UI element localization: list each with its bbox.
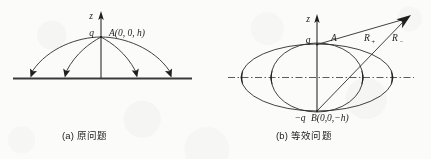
charge-label-negative-b: −q — [294, 113, 305, 123]
r-plus-label-base: R — [363, 33, 370, 43]
caption-panel-a: (a) 原问题 — [62, 128, 108, 142]
z-axis-label-b: z — [305, 14, 310, 24]
panel-a-group: z q A(0, 0, h) — [13, 11, 192, 79]
r-plus-label: R + — [363, 33, 375, 45]
figure-container: z q A(0, 0, h) — [0, 0, 431, 159]
charge-dot-negative-b — [316, 110, 318, 112]
r-minus-vector-line — [317, 22, 404, 112]
charge-dot-a — [100, 36, 102, 38]
ellipse-arrowhead-right-inner — [361, 70, 364, 85]
point-label-a: A(0, 0, h) — [108, 28, 145, 39]
r-minus-label-base: R — [391, 33, 398, 43]
field-line-arc-1 — [33, 37, 102, 71]
point-label-positive-b: A — [330, 33, 337, 43]
charge-label-positive-b: q — [306, 35, 311, 45]
r-plus-label-subscript: + — [371, 38, 375, 45]
r-minus-label-subscript: − — [399, 38, 403, 45]
panel-b-group: z q A R + R − −q B(0,0,−h) — [228, 14, 414, 124]
caption-panel-b: (b) 等效问题 — [276, 128, 332, 142]
z-axis-label-a: z — [88, 11, 93, 21]
charge-label-a: q — [89, 28, 94, 38]
field-line-arc-4 — [101, 37, 170, 71]
r-minus-label: R − — [391, 33, 403, 45]
point-label-negative-b: B(0,0,−h) — [311, 113, 349, 124]
charge-dot-positive-b — [316, 43, 318, 45]
